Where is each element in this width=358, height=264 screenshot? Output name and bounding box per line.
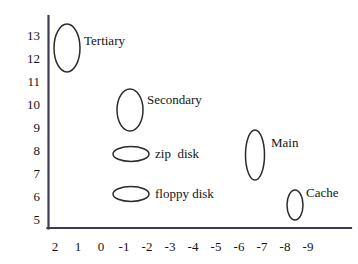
data-marker-floppy-disk[interactable] [113, 187, 149, 202]
y-tick-11: 11 [18, 75, 40, 88]
data-marker-cache[interactable] [287, 190, 303, 220]
x-tick-minus2: -2 [136, 240, 158, 253]
y-tick-8: 8 [18, 144, 40, 157]
x-tick-1: 1 [67, 240, 89, 253]
data-label-cache: Cache [306, 186, 338, 199]
x-tick-minus9: -9 [297, 240, 319, 253]
y-tick-12: 12 [18, 52, 40, 65]
data-marker-main[interactable] [246, 130, 265, 180]
x-tick-minus7: -7 [251, 240, 273, 253]
x-tick-minus4: -4 [182, 240, 204, 253]
x-tick-minus5: -5 [205, 240, 227, 253]
data-label-zip-disk: zip disk [155, 147, 199, 160]
x-tick-minus3: -3 [159, 240, 181, 253]
y-tick-6: 6 [18, 190, 40, 203]
data-marker-zip-disk[interactable] [113, 147, 149, 162]
plot-area [0, 0, 358, 264]
data-label-tertiary: Tertiary [84, 34, 125, 47]
y-tick-13: 13 [18, 29, 40, 42]
scatter-chart: 13 12 11 10 9 8 7 6 5 2 1 0 -1 -2 -3 -4 … [0, 0, 358, 264]
x-tick-minus6: -6 [228, 240, 250, 253]
x-tick-minus8: -8 [274, 240, 296, 253]
data-label-secondary: Secondary [147, 93, 202, 106]
x-tick-minus1: -1 [113, 240, 135, 253]
data-marker-tertiary[interactable] [54, 24, 80, 72]
y-tick-7: 7 [18, 167, 40, 180]
data-label-floppy-disk: floppy disk [155, 187, 214, 200]
y-tick-9: 9 [18, 121, 40, 134]
data-marker-secondary[interactable] [117, 89, 143, 131]
y-tick-10: 10 [18, 98, 40, 111]
x-tick-0: 0 [90, 240, 112, 253]
y-tick-5: 5 [18, 213, 40, 226]
data-label-main: Main [271, 136, 298, 149]
x-tick-2: 2 [44, 240, 66, 253]
